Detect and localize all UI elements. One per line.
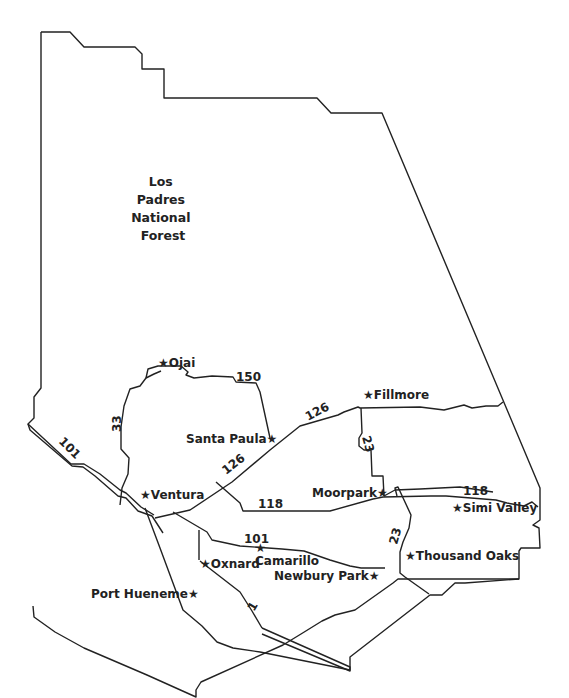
highway-33 — [120, 371, 161, 505]
highway-101-coast — [28, 424, 163, 533]
highway-1-coast — [262, 628, 350, 671]
highway-label-101-inland: 101 — [244, 532, 269, 546]
highway-label-23-south: 23 — [386, 526, 404, 546]
highway-label-101-coast: 101 — [56, 434, 84, 462]
city-oxnard: ★Oxnard — [200, 557, 260, 571]
highway-label-126-south: 126 — [219, 451, 247, 477]
city-ojai: ★Ojai — [158, 356, 195, 370]
county-border-west — [28, 32, 154, 515]
city-newbury-park: Newbury Park★ — [274, 569, 380, 583]
ventura-county-map: Los Padres National Forest ★Ojai ★Fillmo… — [0, 0, 569, 698]
highway-label-118-west: 118 — [258, 497, 283, 511]
city-ventura: ★Ventura — [140, 488, 204, 502]
highway-label-33: 33 — [110, 415, 124, 432]
city-moorpark: Moorpark★ — [312, 486, 388, 500]
highway-23-north — [359, 408, 384, 496]
region-label-los-padres: Los Padres National Forest — [131, 174, 195, 243]
city-santa-paula: Santa Paula★ — [186, 432, 277, 446]
city-thousand-oaks: ★Thousand Oaks — [405, 549, 519, 563]
city-port-hueneme: Port Hueneme★ — [91, 587, 199, 601]
city-fillmore: ★Fillmore — [363, 388, 429, 402]
highway-126 — [155, 402, 503, 518]
highway-1 — [200, 561, 262, 628]
highway-label-126-north: 126 — [303, 400, 332, 424]
county-border-south — [260, 579, 519, 670]
highway-label-118-east: 118 — [463, 484, 488, 498]
city-camarillo: Camarillo — [255, 554, 319, 568]
city-simi-valley: ★Simi Valley — [452, 501, 537, 515]
highway-label-150: 150 — [236, 370, 261, 384]
highway-label-1: 1 — [244, 599, 260, 613]
highway-label-23-north: 23 — [359, 434, 377, 454]
